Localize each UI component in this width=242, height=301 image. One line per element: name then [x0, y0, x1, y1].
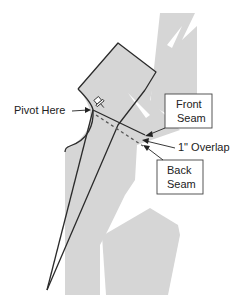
- back-seam-label-line1: Back: [167, 164, 192, 176]
- pivot-label: Pivot Here: [14, 104, 65, 116]
- pivot-arrow: [72, 107, 91, 113]
- pattern-diagram: Pivot Here Front Seam 1" Overlap Back Se…: [0, 0, 242, 301]
- back-seam-label-line2: Seam: [167, 178, 196, 190]
- front-seam-label-line1: Front: [176, 98, 202, 110]
- front-seam-label-line2: Seam: [177, 112, 206, 124]
- lower-pattern-piece: [102, 208, 180, 295]
- overlap-label: 1" Overlap: [178, 141, 230, 153]
- back-seam-arrow: [143, 145, 163, 160]
